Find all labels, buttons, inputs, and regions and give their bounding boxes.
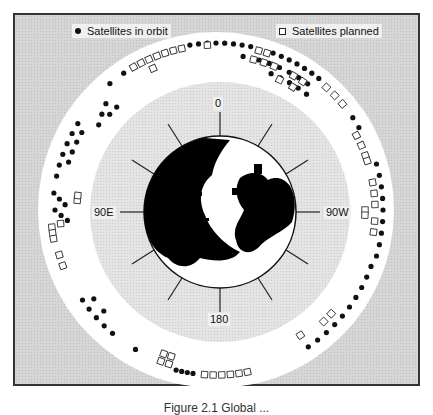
legend-in-orbit-label: Satellites in orbit — [87, 25, 168, 37]
label-180: 180 — [208, 313, 230, 326]
legend-in-orbit: Satellites in orbit — [72, 24, 171, 38]
open-square-icon — [279, 28, 286, 35]
label-0: 0 — [213, 97, 223, 110]
label-90w: 90W — [324, 206, 351, 219]
filled-circle-icon — [75, 28, 81, 34]
figure-caption: Figure 2.1 Global ... — [0, 401, 433, 415]
globe-icon — [144, 136, 296, 288]
label-90e: 90E — [92, 206, 116, 219]
legend-planned: Satellites planned — [276, 24, 382, 38]
legend-planned-label: Satellites planned — [292, 25, 379, 37]
